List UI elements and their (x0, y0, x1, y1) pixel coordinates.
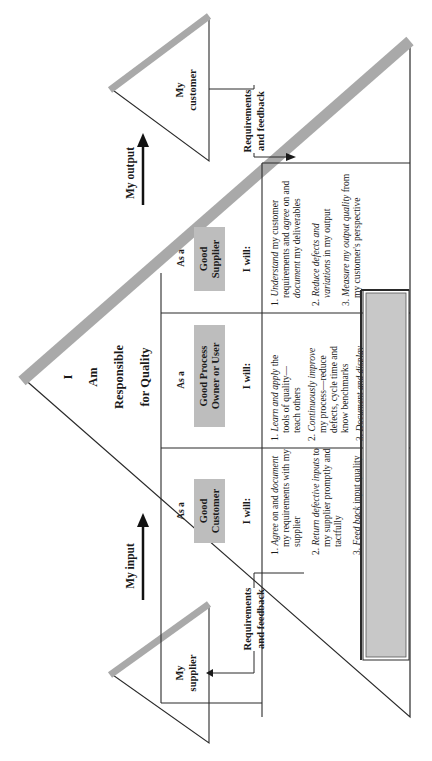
quality-responsibility-diagram: I Am Responsible for Quality My customer… (0, 0, 432, 761)
list-item-line: 1. Learn and apply the (270, 355, 280, 441)
list-item-line: 1. Agree on and document (270, 456, 280, 555)
as-a-label: As a (176, 371, 186, 389)
list-item-line: defects, cycle time and (329, 346, 339, 433)
input-arrow: My input (124, 513, 149, 600)
output-label: My output (124, 147, 137, 199)
list-item-line: know benchmarks (340, 363, 350, 433)
list-item-line: teach others (292, 387, 302, 433)
arrow-right-icon (137, 513, 149, 527)
input-label: My input (124, 543, 137, 589)
column-process-owner-header: As a Good Process Owner or User I will: (176, 325, 252, 427)
list-item: 1. Understand my customerrequirements an… (270, 180, 302, 306)
list-item: 1. Agree on and documentmy requirements … (270, 449, 302, 555)
title-line-1: I (61, 374, 75, 379)
list-item-line: my supplier promptly and (322, 448, 332, 547)
title-line-3: Responsible (112, 345, 126, 409)
supplier-feedback-label-1: Requirements (242, 588, 253, 651)
role-label-1: Good (198, 499, 209, 524)
list-item-line: 2. Continuously improve (307, 348, 317, 441)
supplier-label-2: supplier (187, 654, 198, 691)
arrow-down-icon (286, 153, 296, 161)
list-item-line: 1. Understand my customer (270, 199, 280, 306)
role-label-2: Customer (210, 489, 221, 534)
list-item-line: requirements and agree on and (281, 180, 291, 298)
customer-label-2: customer (187, 69, 198, 111)
arrow-right-icon (137, 133, 149, 147)
list-item-line: document my deliverables (292, 198, 302, 298)
role-label-2: Supplier (210, 239, 221, 278)
list-item-line: tools of quality— (281, 365, 291, 433)
i-will-label: I will: (241, 363, 252, 390)
list-item: 2. Continuously improvemy process—reduce… (307, 346, 350, 441)
role-label-1: Good Process (198, 346, 209, 407)
page-title: I Am Responsible for Quality (61, 345, 152, 409)
supplier-feedback-label-2: and feedback (255, 589, 266, 649)
list-item-line: 2. Reduce defects and (311, 223, 321, 306)
supplier-label-1: My (174, 665, 185, 681)
title-line-4: for Quality (138, 347, 152, 407)
list-item-line: tactfully (333, 515, 343, 547)
customer-triangle: My customer (110, 16, 209, 161)
as-a-label: As a (176, 249, 186, 267)
list-item: 2. Return defective inputs tomy supplier… (311, 448, 343, 555)
title-line-2: Am (86, 367, 100, 387)
supplier-triangle: My supplier (110, 604, 209, 743)
list-item-line: 3. Measure my output quality from (341, 173, 351, 306)
note-box (361, 290, 409, 660)
as-a-label: As a (176, 502, 186, 520)
list-item: 3. Measure my output quality frommy cust… (341, 173, 362, 306)
list-item-line: supplier (292, 516, 302, 547)
list-item-line: 2. Return defective inputs to (311, 448, 321, 555)
customer-feedback-label-1: Requirements (242, 90, 253, 153)
customer-feedback-label-2: and feedback (255, 91, 266, 151)
role-label-1: Good (198, 247, 209, 272)
column-supplier-items: 1. Understand my customerrequirements an… (270, 173, 362, 306)
list-item-line: my customer's perspective (352, 198, 362, 298)
supplier-feedback-connector: Requirements and feedback (206, 573, 304, 677)
column-customer-header: As a Good Customer I will: (176, 479, 252, 543)
output-arrow: My output (124, 133, 149, 205)
list-item: 1. Learn and apply thetools of quality—t… (270, 355, 302, 441)
i-will-label: I will: (241, 246, 252, 273)
list-item-line: my process—reduce (318, 355, 328, 433)
column-customer-items: 1. Agree on and documentmy requirements … (270, 448, 373, 555)
i-will-label: I will: (241, 498, 252, 525)
list-item: 2. Reduce defects andvariations in my ou… (311, 208, 332, 306)
role-label-2: Owner or User (210, 342, 221, 409)
customer-label-1: My (174, 82, 185, 98)
list-item-line: my requirements with my (281, 449, 291, 547)
list-item-line: variations in my output (322, 208, 332, 298)
